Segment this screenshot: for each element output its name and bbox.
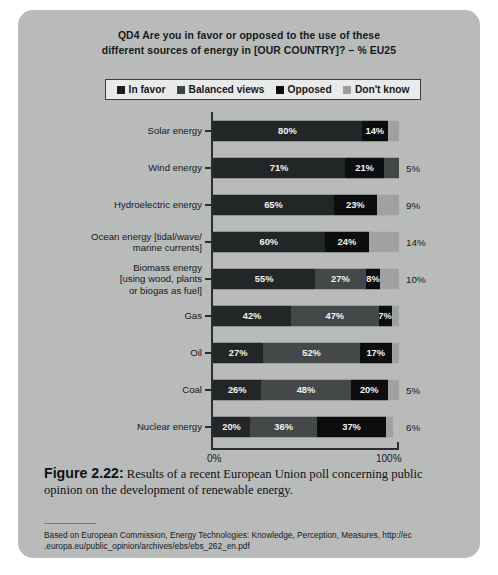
stacked-bar[interactable]: 27%52%17% xyxy=(213,342,399,363)
bar-segment[interactable]: 23% xyxy=(334,194,377,215)
bar-segment[interactable]: 26% xyxy=(213,379,261,400)
stacked-bar[interactable]: 60%24% xyxy=(213,231,399,252)
stacked-bar[interactable]: 65%23% xyxy=(213,194,399,215)
chart-row: Oil27%52%17% xyxy=(18,334,480,371)
bar-segment[interactable]: 20% xyxy=(351,379,388,400)
stacked-bar[interactable]: 42%47%7% xyxy=(213,305,399,326)
chart-row-label-line: Nuclear energy xyxy=(42,421,202,433)
chart-row-label: Ocean energy [tidal/wave/marine currents… xyxy=(42,230,202,253)
bar-segment[interactable]: 7% xyxy=(379,305,392,326)
bar-segment[interactable] xyxy=(384,157,399,178)
bar-segment[interactable]: 65% xyxy=(213,194,334,215)
bar-segment[interactable] xyxy=(386,416,393,437)
chart-title-line-2: different sources of energy in [OUR COUN… xyxy=(44,43,454,58)
stacked-bar[interactable]: 55%27%8% xyxy=(213,268,399,289)
bar-segment-label: 55% xyxy=(255,274,274,284)
chart-row: Coal26%48%20%5% xyxy=(18,371,480,408)
bar-segment-label: 7% xyxy=(379,311,392,321)
chart-row-label: Hydroelectric energy xyxy=(42,199,202,211)
chart-row-label-line: marine currents] xyxy=(42,242,202,254)
bar-segment-label: 80% xyxy=(278,126,297,136)
bar-segment[interactable]: 8% xyxy=(366,268,381,289)
legend-swatch-balanced-views-icon xyxy=(177,86,185,94)
legend-item[interactable]: In favor xyxy=(117,84,166,95)
chart-row: Ocean energy [tidal/wave/marine currents… xyxy=(18,223,480,260)
bar-segment-label: 27% xyxy=(229,348,248,358)
y-axis-tick xyxy=(205,167,212,169)
bar-segment[interactable]: 80% xyxy=(213,120,362,141)
axis-min-label: 0% xyxy=(207,453,221,464)
bar-segment[interactable]: 37% xyxy=(317,416,386,437)
chart-title-line-1: QD4 Are you in favor or opposed to the u… xyxy=(44,28,454,43)
bar-outside-label: 9% xyxy=(406,199,420,210)
legend-swatch-opposed-icon xyxy=(276,86,284,94)
bar-segment[interactable]: 47% xyxy=(291,305,378,326)
bar-segment[interactable]: 48% xyxy=(261,379,350,400)
chart-row: Gas42%47%7% xyxy=(18,297,480,334)
bar-segment[interactable]: 71% xyxy=(213,157,345,178)
bar-segment[interactable]: 17% xyxy=(360,342,392,363)
bar-segment[interactable]: 55% xyxy=(213,268,315,289)
chart-row-label: Solar energy xyxy=(42,125,202,137)
chart-row-label: Coal xyxy=(42,384,202,396)
chart-row-label-line: [using wood, plants xyxy=(42,273,202,285)
chart-row-label-line: Ocean energy [tidal/wave/ xyxy=(42,230,202,242)
bar-segment[interactable] xyxy=(380,268,399,289)
chart-row-label-line: Hydroelectric energy xyxy=(42,199,202,211)
bar-segment[interactable]: 20% xyxy=(213,416,250,437)
bar-segment[interactable]: 52% xyxy=(263,342,360,363)
bar-segment-label: 26% xyxy=(228,385,247,395)
bar-segment[interactable]: 27% xyxy=(213,342,263,363)
bar-outside-label: 5% xyxy=(406,384,420,395)
figure-panel: QD4 Are you in favor or opposed to the u… xyxy=(18,10,480,558)
bar-segment-label: 24% xyxy=(338,237,357,247)
y-axis-tick xyxy=(205,278,212,280)
bar-segment[interactable] xyxy=(388,120,399,141)
bar-segment[interactable] xyxy=(392,342,399,363)
bar-segment[interactable] xyxy=(388,379,399,400)
chart-row-label-line: Wind energy xyxy=(42,162,202,174)
source-note-line-1: Based on European Commission, Energy Tec… xyxy=(44,530,412,540)
legend-item-label: In favor xyxy=(129,84,166,95)
bar-segment[interactable] xyxy=(377,194,399,215)
figure-caption-label: Figure 2.22: xyxy=(44,465,124,481)
bar-segment[interactable]: 60% xyxy=(213,231,325,252)
legend-item[interactable]: Opposed xyxy=(276,84,332,95)
figure-caption: Figure 2.22: Results of a recent Europea… xyxy=(44,465,464,498)
stacked-bar[interactable]: 20%36%37% xyxy=(213,416,399,437)
stacked-bar[interactable]: 26%48%20% xyxy=(213,379,399,400)
chart-plot-area: Solar energy80%14%Wind energy71%21%5%Hyd… xyxy=(18,110,480,460)
stacked-bar[interactable]: 71%21% xyxy=(213,157,399,178)
legend-swatch-in-favor-icon xyxy=(117,86,125,94)
bar-segment[interactable]: 42% xyxy=(213,305,291,326)
stacked-bar[interactable]: 80%14% xyxy=(213,120,399,141)
axis-max-label: 100% xyxy=(376,453,402,464)
bar-outside-label: 10% xyxy=(406,273,426,284)
chart-row-label-line: Biomass energy xyxy=(42,261,202,273)
bar-segment[interactable]: 21% xyxy=(345,157,384,178)
legend-item[interactable]: Don't know xyxy=(343,84,409,95)
x-axis-line xyxy=(211,448,399,450)
chart-row-label: Oil xyxy=(42,347,202,359)
y-axis-tick xyxy=(205,130,212,132)
bar-segment[interactable] xyxy=(392,305,399,326)
bar-segment[interactable] xyxy=(369,231,399,252)
y-axis-tick xyxy=(205,204,212,206)
bar-segment-label: 71% xyxy=(270,163,289,173)
bar-segment[interactable]: 27% xyxy=(315,268,365,289)
legend-item-label: Balanced views xyxy=(189,84,265,95)
bar-segment[interactable]: 24% xyxy=(325,231,370,252)
bar-segment-label: 8% xyxy=(366,274,379,284)
chart-row: Biomass energy[using wood, plantsor biog… xyxy=(18,260,480,297)
legend-item-label: Opposed xyxy=(288,84,332,95)
bar-segment-label: 42% xyxy=(243,311,262,321)
bar-segment[interactable]: 14% xyxy=(362,120,388,141)
chart-legend: In favorBalanced viewsOpposedDon't know xyxy=(105,79,421,100)
bar-segment-label: 47% xyxy=(326,311,345,321)
bar-segment[interactable]: 36% xyxy=(250,416,317,437)
y-axis-tick xyxy=(205,315,212,317)
bar-segment-label: 37% xyxy=(342,422,361,432)
chart-row-label: Wind energy xyxy=(42,162,202,174)
legend-item[interactable]: Balanced views xyxy=(177,84,265,95)
chart-row-label-line: Solar energy xyxy=(42,125,202,137)
